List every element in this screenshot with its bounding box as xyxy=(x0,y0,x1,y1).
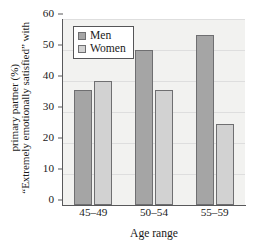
x-axis-tick-labels: 45–4950–5455–59 xyxy=(63,207,245,223)
legend-item-men: Men xyxy=(78,30,126,42)
y-axis-tick-label: 40 xyxy=(43,70,54,81)
y-axis-tick-label: 0 xyxy=(48,194,54,205)
legend-swatch-men-icon xyxy=(78,32,86,40)
x-axis-tick-label: 45–49 xyxy=(79,207,107,218)
y-axis-tick-label: 10 xyxy=(43,163,54,174)
bar-chart-figure: primary partner (%) “Extremely emotional… xyxy=(0,0,259,248)
bar-women-55–59 xyxy=(216,124,234,205)
y-axis-tick-label: 50 xyxy=(43,39,54,50)
y-axis-tick-label: 60 xyxy=(43,8,54,19)
y-axis-title-line-1: “Extremely emotionally satisfied” with xyxy=(20,22,31,194)
y-axis-tick-mark xyxy=(58,14,63,15)
y-axis-tick-label: 30 xyxy=(43,101,54,112)
x-axis-tick-label: 50–54 xyxy=(140,207,168,218)
x-axis-tick-label: 55–59 xyxy=(201,207,229,218)
bar-men-55–59 xyxy=(196,35,214,206)
y-axis-title: primary partner (%) “Extremely emotional… xyxy=(2,0,38,215)
y-axis-tick-labels: 0102030405060 xyxy=(36,14,58,206)
chart-legend: Men Women xyxy=(73,26,134,59)
y-axis-tick-label: 20 xyxy=(43,132,54,143)
legend-label-men: Men xyxy=(90,30,111,42)
legend-swatch-women-icon xyxy=(78,45,86,53)
legend-item-women: Women xyxy=(78,43,126,55)
x-axis-title: Age range xyxy=(63,228,245,240)
legend-label-women: Women xyxy=(90,43,126,55)
